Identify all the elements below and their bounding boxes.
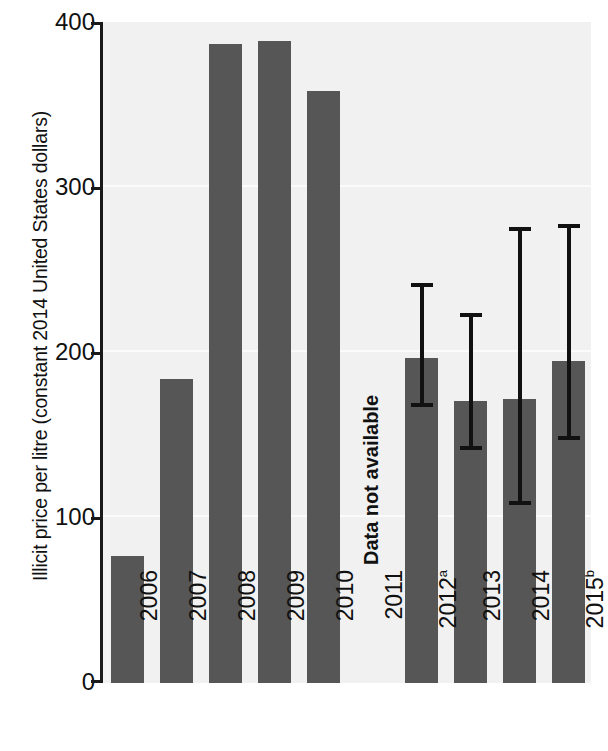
error-bar-stem [567,226,571,440]
error-bar-cap-lower [411,403,433,407]
x-tick-text: 2009 [283,570,309,621]
x-tick-text: 2010 [332,570,358,621]
x-tick-superscript: b [582,570,597,577]
error-bar-cap-lower [460,446,482,450]
error-bar-cap-lower [558,436,580,440]
x-tick-text: 2011 [381,570,407,619]
x-tick-label-2010: 2010 [332,570,358,690]
y-tick-label-200: 200 [25,340,95,364]
x-tick-label-2009: 2009 [283,570,309,690]
error-bar-cap-upper [558,224,580,228]
x-tick-label-2007: 2007 [185,570,211,690]
error-bar-cap-lower [509,501,531,505]
x-tick-text: 2015 [582,577,608,628]
x-tick-text: 2007 [185,570,211,621]
y-tick-mark-300 [91,187,101,190]
x-tick-label-2012: 2012a [430,570,456,690]
x-tick-text: 2006 [136,570,162,621]
x-tick-label-2015: 2015b [577,570,603,690]
error-bar-stem [469,315,473,450]
error-bar-cap-upper [460,313,482,317]
y-tick-mark-100 [91,517,101,520]
error-bar-cap-upper [411,283,433,287]
x-tick-text: 2013 [479,570,505,621]
error-bar-cap-upper [509,227,531,231]
annotation-data-not-available: Data not available [358,360,384,600]
x-tick-label-2014: 2014 [528,570,554,690]
x-tick-label-2011: 2011 [381,570,407,690]
y-axis-bottom-cap [91,680,103,683]
x-tick-text: 2008 [234,570,260,621]
y-tick-label-0: 0 [25,670,95,694]
x-tick-label-2008: 2008 [234,570,260,690]
error-bar-stem [518,229,522,505]
y-tick-label-300: 300 [25,175,95,199]
x-tick-text: 2014 [528,570,554,621]
y-tick-mark-200 [91,352,101,355]
y-axis-tick-labels: 400 300 200 100 0 [22,0,95,751]
y-tick-label-400: 400 [25,10,95,34]
error-bar-stem [420,285,424,407]
x-tick-label-2006: 2006 [136,570,162,690]
x-tick-text: 2012 [435,577,461,628]
y-axis-top-cap [91,22,103,25]
x-tick-label-2013: 2013 [479,570,505,690]
y-tick-label-100: 100 [25,505,95,529]
x-tick-superscript: a [435,570,450,577]
